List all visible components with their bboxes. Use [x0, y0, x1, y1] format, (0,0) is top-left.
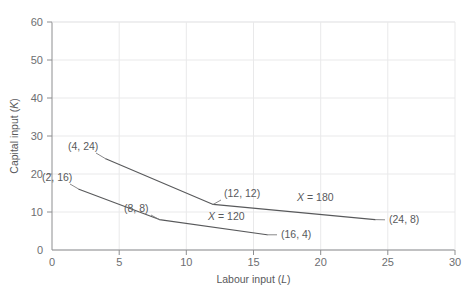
point-label-12-12: (12, 12) [224, 187, 260, 199]
curve-label-x180-variable: X [296, 191, 305, 203]
x-tick-label-20: 20 [315, 256, 327, 268]
point-label-16-4: (16, 4) [281, 228, 311, 240]
leader-line-4-24 [96, 153, 106, 159]
x-tick-label-10: 10 [180, 256, 192, 268]
curve-label-x180-value: = 180 [307, 191, 334, 203]
svg-text:Capital input (K): Capital input (K) [8, 98, 20, 173]
x-tick-label-15: 15 [247, 256, 259, 268]
y-tick-label-60: 60 [31, 16, 43, 28]
x-axis-title-suffix: ) [287, 273, 291, 285]
y-axis-title-prefix: Capital input ( [8, 108, 20, 173]
svg-text:Labour input (L): Labour input (L) [216, 273, 290, 285]
isoquant-chart: 60 50 40 30 20 10 0 0 5 10 15 20 25 30 C… [0, 0, 470, 297]
x-tick-label-30: 30 [449, 256, 461, 268]
y-tick-label-30: 30 [31, 130, 43, 142]
curve-label-x120-value: = 120 [218, 210, 245, 222]
x-tick-label-25: 25 [382, 256, 394, 268]
point-label-2-16: (2, 16) [42, 171, 72, 183]
curve-label-x120-variable: X [207, 210, 216, 222]
curve-label-x120: X= 120 [207, 210, 245, 222]
point-label-4-24: (4, 24) [68, 140, 98, 152]
leader-line-2-16 [70, 184, 79, 189]
x-tick-marks [119, 250, 455, 255]
x-tick-labels: 0 5 10 15 20 25 30 [49, 256, 461, 268]
y-tick-label-0: 0 [37, 244, 43, 256]
x-tick-label-5: 5 [116, 256, 122, 268]
y-axis-title: Capital input (K) [8, 98, 20, 173]
y-tick-label-40: 40 [31, 92, 43, 104]
point-label-8-8: (8, 8) [124, 202, 149, 214]
y-tick-labels: 60 50 40 30 20 10 0 [31, 16, 43, 256]
x-tick-label-0: 0 [49, 256, 55, 268]
leader-line-12-12 [213, 200, 221, 204]
x-axis-title: Labour input (L) [216, 273, 290, 285]
y-tick-label-10: 10 [31, 206, 43, 218]
y-tick-label-50: 50 [31, 54, 43, 66]
chart-svg: 60 50 40 30 20 10 0 0 5 10 15 20 25 30 C… [0, 0, 470, 297]
y-tick-marks [47, 22, 52, 212]
point-label-24-8: (24, 8) [389, 213, 419, 225]
curve-label-x180: X= 180 [296, 191, 334, 203]
y-axis-title-suffix: ) [8, 98, 20, 102]
x-axis-title-prefix: Labour input ( [216, 273, 281, 285]
